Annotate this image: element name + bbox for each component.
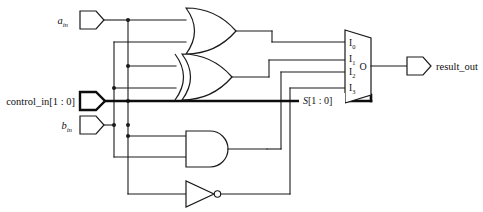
and-gate-body	[186, 131, 228, 167]
net-a-in	[104, 20, 186, 194]
junction-dot	[126, 18, 130, 22]
or-gate-body	[186, 8, 236, 54]
junction-dot	[112, 123, 116, 127]
mux-output-label: O	[359, 61, 366, 72]
xor-gate-body	[182, 54, 232, 100]
logic-diagram-canvas: ain control_in[1 : 0] bin	[0, 0, 483, 212]
xor-gate-extra-arc	[175, 54, 184, 100]
mux-select-label: S[1 : 0]	[303, 95, 332, 106]
not-gate[interactable]	[186, 181, 221, 207]
output-port-result-out[interactable]	[407, 57, 431, 75]
schematic-svg: ain control_in[1 : 0] bin	[0, 0, 483, 212]
net-or-to-mux-i0	[272, 31, 345, 42]
net-b-in	[104, 42, 186, 157]
output-label-result-out: result_out	[436, 61, 478, 72]
input-label-b-in: bin	[61, 120, 72, 133]
net-and-to-mux-i2	[267, 72, 345, 149]
port-pentagon-result-out	[407, 57, 431, 75]
input-port-a-in[interactable]	[80, 11, 104, 29]
input-label-control-in: control_in[1 : 0]	[6, 96, 75, 107]
junction-dot	[126, 64, 130, 68]
junction-dot	[126, 134, 130, 138]
net-xor-to-mux-i1	[269, 60, 345, 77]
input-label-a-in: ain	[57, 15, 68, 28]
input-port-b-in[interactable]	[80, 116, 104, 134]
port-pentagon-a-in	[80, 11, 104, 29]
not-gate-triangle	[186, 181, 214, 207]
not-gate-bubble	[214, 191, 220, 197]
or-gate[interactable]	[186, 8, 236, 54]
port-pentagon-b-in	[80, 116, 104, 134]
port-pentagon-control-in	[80, 92, 105, 110]
junction-dot	[126, 123, 130, 127]
input-port-control-in[interactable]	[80, 92, 105, 110]
junction-dot	[112, 86, 116, 90]
xor-gate[interactable]	[175, 54, 232, 100]
and-gate[interactable]	[186, 131, 228, 167]
